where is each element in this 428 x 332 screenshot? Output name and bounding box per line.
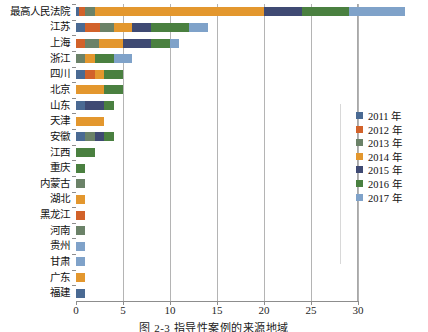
legend-item[interactable]: 2012 年	[356, 122, 428, 136]
legend-swatch	[356, 126, 363, 133]
bar-segment	[76, 117, 104, 126]
bar-segment	[151, 23, 189, 32]
y-axis-tick	[72, 98, 76, 99]
x-axis-tick-label: 20	[244, 304, 284, 316]
bar-row	[76, 7, 405, 16]
legend-label: 2017 年	[368, 190, 402, 205]
bar-segment	[104, 70, 123, 79]
y-axis-category-label: 福建	[0, 287, 70, 298]
bar-segment	[349, 7, 405, 16]
legend-item[interactable]: 2017 年	[356, 190, 428, 204]
legend-item[interactable]: 2015 年	[356, 162, 428, 176]
y-axis-category-label: 黑龙江	[0, 209, 70, 220]
legend-item[interactable]: 2013 年	[356, 135, 428, 149]
legend-item[interactable]: 2011 年	[356, 108, 428, 122]
legend-item[interactable]: 2014 年	[356, 149, 428, 163]
y-axis-tick	[72, 51, 76, 52]
y-axis-tick	[72, 176, 76, 177]
y-axis-tick	[72, 238, 76, 239]
legend-swatch	[356, 166, 363, 173]
bar-segment	[76, 23, 85, 32]
bar-segment	[104, 85, 123, 94]
y-axis-category-label: 内蒙古	[0, 178, 70, 189]
y-axis-category-label: 安徽	[0, 131, 70, 142]
bar-segment	[76, 273, 85, 282]
y-axis-tick	[72, 192, 76, 193]
y-axis-tick	[72, 254, 76, 255]
bar-segment	[85, 23, 100, 32]
bar-row	[76, 39, 179, 48]
y-axis-category-label: 山东	[0, 100, 70, 111]
y-axis-category-label: 天津	[0, 115, 70, 126]
legend-item[interactable]: 2016 年	[356, 176, 428, 190]
legend-divider	[340, 104, 341, 264]
y-axis-tick	[72, 160, 76, 161]
y-axis-category-label: 重庆	[0, 162, 70, 173]
gridline	[123, 4, 124, 301]
bar-segment	[302, 7, 349, 16]
y-axis-tick	[72, 285, 76, 286]
legend-swatch	[356, 180, 363, 187]
y-axis-category-label: 江苏	[0, 21, 70, 32]
y-axis-tick	[72, 82, 76, 83]
bar-segment	[76, 242, 85, 251]
bar-row	[76, 257, 85, 266]
y-axis-tick	[72, 113, 76, 114]
bar-segment	[99, 39, 123, 48]
figure-caption: 图 2-3 指导性案例的来源地域	[0, 319, 428, 332]
bar-segment	[264, 7, 302, 16]
y-axis-category-label: 江西	[0, 147, 70, 158]
bar-row	[76, 164, 85, 173]
y-axis-category-label: 北京	[0, 84, 70, 95]
bar-segment	[170, 39, 179, 48]
legend-swatch	[356, 112, 363, 119]
bar-segment	[114, 23, 133, 32]
bar-row	[76, 101, 114, 110]
bar-segment	[76, 70, 85, 79]
bar-row	[76, 54, 132, 63]
bar-segment	[76, 289, 85, 298]
gridline	[170, 4, 171, 301]
x-axis-tick-label: 5	[103, 304, 143, 316]
bar-segment	[76, 54, 85, 63]
y-axis-tick	[72, 67, 76, 68]
y-axis-category-label: 最高人民法院	[0, 6, 70, 17]
y-axis-tick	[72, 4, 76, 5]
y-axis-tick	[72, 35, 76, 36]
bar-row	[76, 179, 85, 188]
bar-segment	[76, 179, 85, 188]
bar-segment	[132, 23, 151, 32]
x-axis-tick-label: 0	[56, 304, 96, 316]
bar-segment	[85, 39, 99, 48]
bar-segment	[95, 7, 264, 16]
bar-segment	[85, 101, 104, 110]
chart-legend: 2011 年2012 年2013 年2014 年2015 年2016 年2017…	[356, 108, 428, 203]
bar-segment	[76, 195, 85, 204]
bar-segment	[114, 54, 133, 63]
bar-segment	[85, 7, 94, 16]
bar-segment	[76, 39, 85, 48]
bar-row	[76, 226, 85, 235]
y-axis-tick	[72, 145, 76, 146]
bar-segment	[104, 101, 113, 110]
bar-segment	[76, 257, 85, 266]
legend-swatch	[356, 153, 363, 160]
bar-segment	[100, 23, 113, 32]
bar-row	[76, 211, 85, 220]
bar-row	[76, 289, 85, 298]
bar-segment	[76, 101, 85, 110]
x-axis-tick-label: 30	[338, 304, 378, 316]
bar-row	[76, 148, 95, 157]
plot-area	[76, 4, 358, 301]
bar-segment	[76, 211, 85, 220]
bar-row	[76, 273, 85, 282]
chart-figure: 051015202530 最高人民法院江苏上海浙江四川北京山东天津安徽江西重庆内…	[0, 0, 428, 332]
y-axis-category-label: 广东	[0, 272, 70, 283]
bar-segment	[85, 70, 94, 79]
legend-swatch	[356, 139, 363, 146]
y-axis-category-label: 贵州	[0, 240, 70, 251]
gridline	[264, 4, 265, 301]
bar-row	[76, 242, 85, 251]
bar-segment	[95, 54, 114, 63]
y-axis-category-label: 四川	[0, 68, 70, 79]
